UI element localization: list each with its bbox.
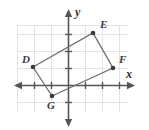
quadrilateral-defg [33, 33, 113, 96]
vertex-dot-g [50, 94, 55, 99]
x-axis-arrow-right-icon [127, 82, 135, 89]
coordinate-plane-figure: D E F G x y [0, 0, 149, 130]
vertex-dot-e [91, 31, 96, 36]
coordinate-plane-canvas [0, 0, 149, 130]
y-axis-label: y [75, 6, 80, 18]
y-axis-arrow-up-icon [65, 9, 72, 17]
y-axis-arrow-down-icon [65, 119, 72, 127]
vertex-label-e: E [100, 19, 107, 30]
vertex-label-f: F [119, 54, 126, 65]
vertex-label-d: D [22, 54, 30, 65]
y-axis [65, 9, 72, 127]
vertex-dot-d [31, 65, 36, 70]
vertex-dot-f [111, 66, 116, 71]
x-axis-label: x [126, 68, 132, 80]
vertex-label-g: G [47, 100, 55, 111]
